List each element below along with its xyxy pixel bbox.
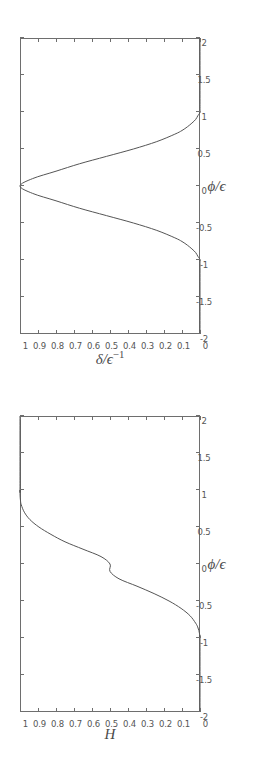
- y-tick: [182, 416, 183, 420]
- y-axis-label-delta: δ/ϵ−1: [96, 348, 125, 368]
- x-tick-label: -1: [200, 260, 208, 270]
- plot-area-H: -2-1.5-1-0.500.511.5200.10.20.30.40.50.6…: [12, 408, 227, 748]
- y-tick: [56, 330, 57, 334]
- y-tick: [38, 708, 39, 712]
- x-tick-label: 2: [201, 38, 206, 48]
- y-tick-label: 1: [12, 719, 28, 729]
- x-tick-label: 0.5: [198, 527, 211, 537]
- y-tick-label: 1: [12, 341, 28, 351]
- y-tick-label: 0.3: [138, 719, 154, 729]
- y-tick: [182, 330, 183, 334]
- figure-canvas: -2-1.5-1-0.500.511.5200.10.20.30.40.50.6…: [0, 0, 279, 776]
- y-tick-label: 0: [192, 341, 208, 351]
- x-tick: [196, 563, 200, 564]
- x-tick-label: -0.5: [196, 601, 212, 611]
- x-tick: [20, 148, 24, 149]
- y-tick-label: 0.1: [174, 719, 190, 729]
- x-tick: [196, 111, 200, 112]
- chart-H: -2-1.5-1-0.500.511.5200.10.20.30.40.50.6…: [12, 408, 227, 748]
- y-tick: [38, 330, 39, 334]
- x-tick-label: 1: [201, 112, 206, 122]
- y-tick-label: 0.8: [48, 341, 64, 351]
- y-tick: [146, 330, 147, 334]
- y-tick: [56, 708, 57, 712]
- x-tick: [196, 185, 200, 186]
- y-tick: [92, 38, 93, 42]
- y-tick: [182, 38, 183, 42]
- x-tick: [20, 637, 24, 638]
- x-tick-label: -0.5: [196, 223, 212, 233]
- x-tick-label: 1.5: [198, 75, 211, 85]
- y-tick: [74, 416, 75, 420]
- y-tick: [74, 330, 75, 334]
- y-tick: [200, 38, 201, 42]
- x-tick: [20, 222, 24, 223]
- y-tick: [20, 38, 21, 42]
- y-axis-label-H: H: [105, 726, 116, 743]
- y-tick: [146, 708, 147, 712]
- y-tick-label: 0.7: [66, 341, 82, 351]
- y-tick: [38, 38, 39, 42]
- y-tick: [164, 416, 165, 420]
- y-tick: [128, 330, 129, 334]
- y-tick: [110, 416, 111, 420]
- y-tick: [110, 330, 111, 334]
- y-tick: [20, 416, 21, 420]
- y-tick: [164, 38, 165, 42]
- y-tick: [200, 330, 201, 334]
- y-tick: [128, 708, 129, 712]
- y-tick: [92, 416, 93, 420]
- y-tick: [182, 708, 183, 712]
- x-tick: [20, 74, 24, 75]
- y-tick-label: 0.1: [174, 341, 190, 351]
- data-curve-delta: [12, 30, 227, 370]
- y-tick: [74, 38, 75, 42]
- y-tick-label: 0.6: [84, 719, 100, 729]
- x-tick-label: 0: [201, 186, 206, 196]
- x-tick: [20, 185, 24, 186]
- y-tick: [92, 330, 93, 334]
- y-tick: [200, 416, 201, 420]
- data-curve-H: [12, 408, 227, 748]
- y-tick-label: 0.8: [48, 719, 64, 729]
- y-tick-label: 0.2: [156, 341, 172, 351]
- y-tick-label: 0.7: [66, 719, 82, 729]
- x-tick-label: 1.5: [198, 453, 211, 463]
- x-tick: [20, 296, 24, 297]
- x-tick-label: -1.5: [196, 297, 212, 307]
- y-tick: [164, 708, 165, 712]
- y-tick: [200, 708, 201, 712]
- y-tick: [128, 416, 129, 420]
- y-tick: [20, 330, 21, 334]
- plot-area-delta: -2-1.5-1-0.500.511.5200.10.20.30.40.50.6…: [12, 30, 227, 370]
- x-axis-label-delta: ϕ/ϵ: [208, 178, 226, 195]
- y-tick: [38, 416, 39, 420]
- y-tick: [56, 38, 57, 42]
- y-tick-label: 0: [192, 719, 208, 729]
- x-tick-label: 0.5: [198, 149, 211, 159]
- x-tick: [20, 563, 24, 564]
- y-tick-label: 0.9: [30, 341, 46, 351]
- y-tick-label: 0.2: [156, 719, 172, 729]
- x-tick: [196, 489, 200, 490]
- y-tick: [92, 708, 93, 712]
- y-tick: [20, 708, 21, 712]
- y-tick: [74, 708, 75, 712]
- x-tick: [20, 452, 24, 453]
- x-tick: [20, 526, 24, 527]
- x-tick-label: 1: [201, 490, 206, 500]
- y-tick-label: 0.3: [138, 341, 154, 351]
- x-tick-label: -1: [200, 638, 208, 648]
- x-tick: [20, 259, 24, 260]
- chart-delta-epsilon: -2-1.5-1-0.500.511.5200.10.20.30.40.50.6…: [12, 30, 227, 370]
- y-tick: [146, 38, 147, 42]
- x-axis-label-H: ϕ/ϵ: [208, 556, 226, 573]
- x-tick: [20, 674, 24, 675]
- x-tick: [20, 489, 24, 490]
- x-tick-label: 2: [201, 416, 206, 426]
- y-tick-label: 0.4: [120, 719, 136, 729]
- x-tick: [20, 111, 24, 112]
- y-tick: [56, 416, 57, 420]
- y-tick-label: 0.9: [30, 719, 46, 729]
- y-tick: [146, 416, 147, 420]
